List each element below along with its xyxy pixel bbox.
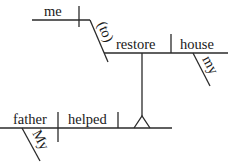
word-me: me: [44, 3, 62, 19]
sentence-diagram: me (to) restore house my father helped M…: [0, 0, 235, 166]
pedestal-triangle: [134, 116, 150, 128]
word-house: house: [180, 36, 214, 52]
word-my: my: [199, 53, 222, 78]
word-to: (to): [93, 19, 117, 45]
word-father: father: [13, 111, 47, 127]
word-restore: restore: [116, 36, 155, 52]
word-helped: helped: [68, 111, 107, 127]
